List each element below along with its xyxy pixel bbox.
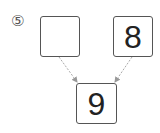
number-box-right: 8 (113, 16, 153, 57)
problem-number: ⑤ (11, 14, 24, 29)
blank-answer-box[interactable] (40, 16, 80, 57)
arrow-right-to-bottom (115, 57, 132, 82)
number-box-total: 9 (76, 83, 117, 124)
arrow-left-to-bottom (59, 57, 77, 82)
